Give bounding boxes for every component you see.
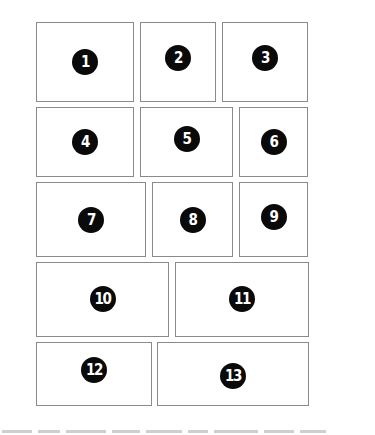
panel-7: 7 bbox=[36, 182, 146, 257]
panel-number-badge: 7 bbox=[78, 207, 104, 233]
panel-number-badge: 1 bbox=[72, 49, 98, 75]
panel-number-badge: 13 bbox=[220, 363, 246, 389]
panel-number-badge: 6 bbox=[261, 129, 287, 155]
panel-6: 6 bbox=[239, 107, 308, 177]
panel-8: 8 bbox=[152, 182, 233, 257]
panel-9: 9 bbox=[239, 182, 308, 257]
panel-12: 12 bbox=[36, 342, 152, 406]
panel-13: 13 bbox=[157, 342, 309, 406]
panel-1: 1 bbox=[36, 22, 134, 102]
panel-5: 5 bbox=[140, 107, 233, 177]
panel-2: 2 bbox=[140, 22, 216, 102]
panel-3: 3 bbox=[222, 22, 308, 102]
panel-number-badge: 5 bbox=[174, 126, 200, 152]
panel-10: 10 bbox=[36, 262, 169, 337]
panel-11: 11 bbox=[175, 262, 309, 337]
panel-number-badge: 10 bbox=[90, 286, 116, 312]
panel-number-badge: 4 bbox=[72, 129, 98, 155]
panel-number-badge: 11 bbox=[229, 286, 255, 312]
panel-4: 4 bbox=[36, 107, 134, 177]
panel-number-badge: 12 bbox=[81, 357, 107, 383]
panel-number-badge: 8 bbox=[180, 207, 206, 233]
cropped-caption-text bbox=[0, 430, 375, 435]
panel-number-badge: 2 bbox=[165, 45, 191, 71]
panel-number-badge: 3 bbox=[252, 45, 278, 71]
panel-number-badge: 9 bbox=[261, 204, 287, 230]
